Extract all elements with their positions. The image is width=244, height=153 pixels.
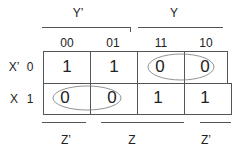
grouping-ellipse-r0 (148, 54, 214, 80)
bracket-z-prime-right (200, 122, 231, 123)
bracket-z-prime-left (42, 122, 86, 123)
grouping-overlay (0, 0, 244, 153)
label-z-prime-right: Z’ (198, 133, 214, 147)
bracket-z (101, 122, 184, 123)
label-z: Z (124, 133, 140, 147)
label-z-prime-left: Z’ (58, 133, 74, 147)
grouping-ellipse-r1 (53, 86, 121, 110)
